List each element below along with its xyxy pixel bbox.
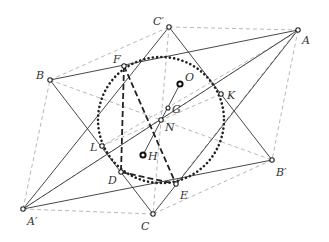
point-b: [48, 78, 52, 82]
label-b-prime: B′: [275, 166, 287, 179]
point-b-prime: [270, 158, 274, 162]
label-l: L: [89, 141, 97, 154]
label-d: D: [107, 174, 117, 187]
label-e: E: [179, 189, 188, 202]
point-h: [140, 152, 145, 157]
point-g: [166, 106, 170, 110]
diagram-canvas: A B C A′ B′ C′ F K L D E O G N H: [0, 0, 329, 242]
point-f: [122, 64, 126, 68]
label-f: F: [112, 53, 121, 66]
geometry-diagram: A B C A′ B′ C′ F K L D E O G N H: [0, 0, 329, 242]
label-c: C: [141, 220, 150, 233]
point-d: [119, 170, 123, 174]
label-h: H: [147, 150, 158, 163]
point-a: [296, 28, 300, 32]
point-k: [219, 92, 223, 96]
label-c-prime: C′: [153, 15, 164, 28]
point-c-prime: [167, 25, 171, 29]
label-k: K: [226, 89, 236, 102]
label-a: A: [301, 34, 310, 47]
point-a-prime: [21, 207, 25, 211]
label-b: B: [35, 69, 44, 82]
points: [21, 25, 300, 216]
point-l: [100, 144, 104, 148]
point-e: [174, 182, 178, 186]
label-n: N: [164, 121, 175, 134]
label-g: G: [172, 103, 181, 116]
point-o: [177, 81, 182, 86]
point-n: [159, 118, 163, 122]
point-c: [151, 212, 155, 216]
label-a-prime: A′: [26, 215, 38, 228]
label-o: O: [185, 71, 194, 84]
